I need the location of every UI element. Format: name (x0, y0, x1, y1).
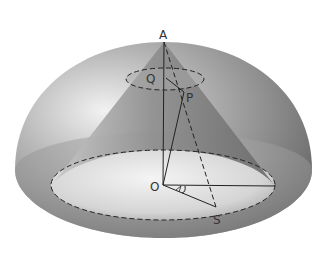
label-P: P (186, 91, 193, 105)
hemisphere-cone-diagram: A Q P O S (0, 0, 336, 257)
label-Q: Q (146, 72, 155, 86)
cross-section-circle (126, 68, 204, 90)
label-O: O (150, 180, 159, 194)
label-S: S (213, 213, 221, 227)
label-A: A (159, 28, 168, 42)
